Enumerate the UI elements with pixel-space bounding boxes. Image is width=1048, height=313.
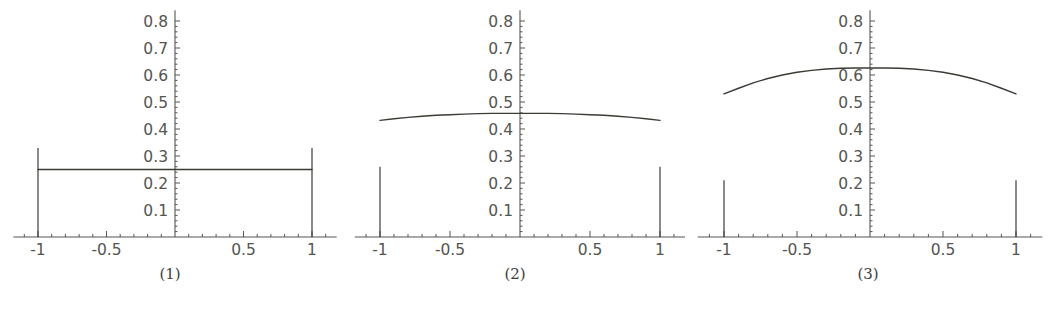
y-axis-tick-label: 0.1 [488,202,513,220]
plot-canvas-1: -1-0.50.510.10.20.30.40.50.60.70.8 [0,0,340,260]
plot-panel-2: -1-0.50.510.10.20.30.40.50.60.70.8 (2) [345,0,685,313]
y-axis-tick-label: 0.4 [143,121,168,139]
x-axis-tick-label: 1 [655,241,665,259]
y-axis-tick-label: 0.2 [143,175,168,193]
plot-canvas-2: -1-0.50.510.10.20.30.40.50.60.70.8 [345,0,685,260]
y-axis-tick-label: 0.8 [143,13,168,31]
plot-panel-3: -1-0.50.510.10.20.30.40.50.60.70.8 (3) [693,0,1043,313]
plot-panel-1: -1-0.50.510.10.20.30.40.50.60.70.8 (1) [0,0,340,313]
plot-canvas-3: -1-0.50.510.10.20.30.40.50.60.70.8 [693,0,1043,260]
y-axis-tick-label: 0.5 [488,94,513,112]
y-axis-tick-label: 0.3 [488,148,513,166]
y-axis-tick-label: 0.5 [143,94,168,112]
y-axis-tick-label: 0.7 [488,40,513,58]
x-axis-tick-label: -1 [716,241,731,259]
x-axis-tick-label: 0.5 [231,241,256,259]
y-axis-tick-label: 0.6 [838,67,863,85]
figure-three-density-plots: -1-0.50.510.10.20.30.40.50.60.70.8 (1) -… [0,0,1048,313]
plot-caption-3: (3) [693,265,1043,283]
y-axis-tick-label: 0.4 [488,121,513,139]
y-axis-tick-label: 0.4 [838,121,863,139]
y-axis-tick-label: 0.5 [838,94,863,112]
x-axis-tick-label: 1 [307,241,317,259]
y-axis-tick-label: 0.6 [488,67,513,85]
y-axis-tick-label: 0.3 [838,148,863,166]
y-axis-tick-label: 0.8 [838,13,863,31]
y-axis-tick-label: 0.3 [143,148,168,166]
y-axis-tick-label: 0.2 [838,175,863,193]
y-axis-tick-label: 0.8 [488,13,513,31]
x-axis-tick-label: 1 [1011,241,1021,259]
plot-caption-1: (1) [0,265,340,283]
y-axis-tick-label: 0.7 [143,40,168,58]
x-axis-tick-label: -0.5 [782,241,812,259]
y-axis-tick-label: 0.1 [838,202,863,220]
y-axis-tick-label: 0.6 [143,67,168,85]
x-axis-tick-label: 0.5 [578,241,603,259]
x-axis-tick-label: -0.5 [91,241,121,259]
y-axis-tick-label: 0.7 [838,40,863,58]
x-axis-tick-label: -0.5 [435,241,465,259]
x-axis-tick-label: 0.5 [931,241,956,259]
plot-caption-2: (2) [345,265,685,283]
y-axis-tick-label: 0.1 [143,202,168,220]
x-axis-tick-label: -1 [372,241,387,259]
y-axis-tick-label: 0.2 [488,175,513,193]
x-axis-tick-label: -1 [30,241,45,259]
